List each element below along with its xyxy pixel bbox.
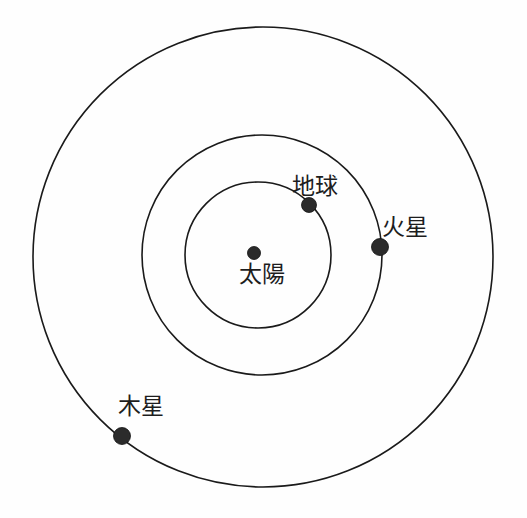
orbit-mars (142, 135, 382, 375)
solar-system-diagram: 太陽 地球 火星 木星 (0, 0, 527, 518)
earth-label: 地球 (292, 175, 339, 198)
jupiter-dot (114, 428, 131, 445)
earth-dot (302, 198, 317, 213)
orbit-canvas (0, 0, 527, 518)
mars-dot (372, 239, 389, 256)
orbit-jupiter (33, 27, 493, 487)
mars-label: 火星 (382, 216, 429, 239)
jupiter-label: 木星 (118, 395, 165, 418)
sun-label: 太陽 (239, 263, 286, 286)
sun-dot (248, 247, 261, 260)
